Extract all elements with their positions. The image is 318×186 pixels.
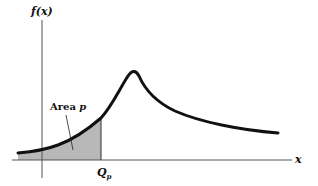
x-axis-label: x [295, 153, 302, 166]
quantile-label: Qp [97, 166, 112, 181]
density-diagram [0, 0, 318, 186]
area-label: Area p [50, 101, 86, 112]
density-curve [18, 72, 278, 154]
y-axis-label: f(x) [31, 5, 53, 18]
shaded-area-p [18, 118, 101, 160]
